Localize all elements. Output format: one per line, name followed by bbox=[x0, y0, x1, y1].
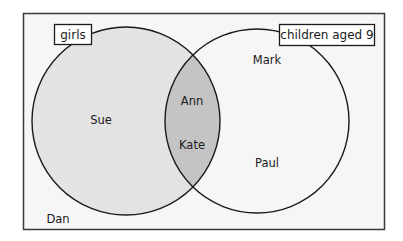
member-sue: Sue bbox=[90, 113, 112, 127]
children-aged-9-set-label: children aged 9 bbox=[280, 25, 375, 46]
member-ann: Ann bbox=[181, 94, 203, 108]
girls-set-label: girls bbox=[55, 25, 92, 45]
member-paul: Paul bbox=[255, 156, 279, 170]
member-dan: Dan bbox=[46, 212, 69, 226]
girls-label-text: girls bbox=[60, 28, 85, 42]
member-mark: Mark bbox=[253, 53, 282, 67]
children-aged-9-label-text: children aged 9 bbox=[280, 28, 373, 42]
member-kate: Kate bbox=[179, 138, 205, 152]
venn-diagram: girls children aged 9 Sue Ann Kate Mark … bbox=[0, 0, 403, 241]
